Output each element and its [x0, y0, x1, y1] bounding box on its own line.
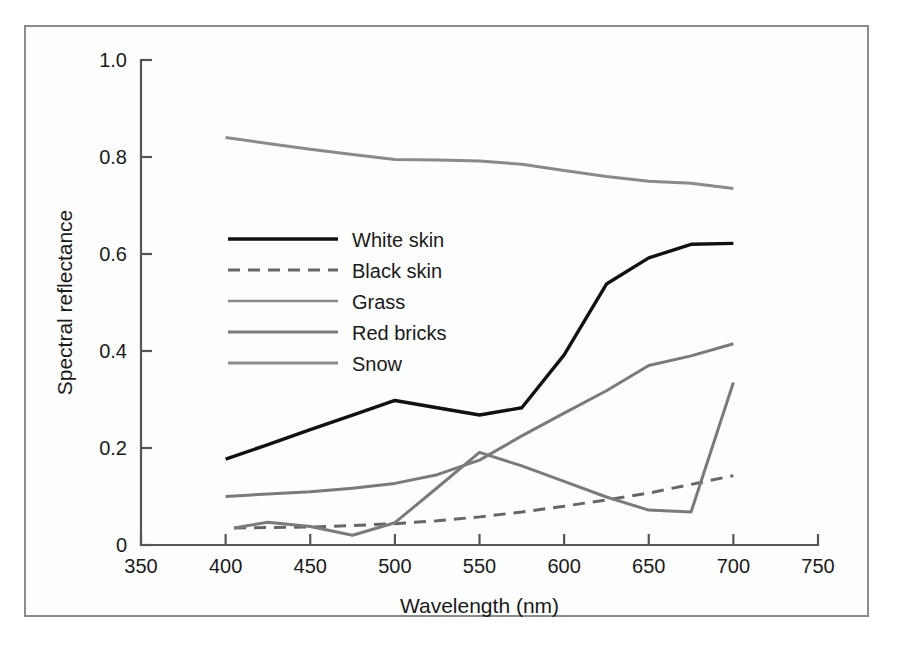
y-tick-label: 0: [116, 534, 127, 556]
series-line-white-skin: [226, 243, 734, 459]
x-tick-label: 450: [294, 555, 327, 577]
series-line-red-bricks: [226, 344, 734, 497]
legend-group: White skinBlack skinGrassRed bricksSnow: [228, 229, 446, 375]
legend-label-white-skin: White skin: [352, 229, 444, 251]
y-axis-title: Spectral reflectance: [53, 210, 76, 396]
y-tick-label: 0.8: [99, 146, 127, 168]
spectral-reflectance-plot: 35040045050055060065070075000.20.40.60.8…: [0, 0, 912, 652]
x-tick-label: 500: [378, 555, 411, 577]
x-tick-label: 400: [209, 555, 242, 577]
x-tick-label: 650: [632, 555, 665, 577]
series-line-black-skin: [234, 476, 733, 528]
series-group: [226, 138, 734, 536]
y-tick-label: 0.2: [99, 437, 127, 459]
x-tick-label: 700: [717, 555, 750, 577]
y-tick-label: 0.6: [99, 243, 127, 265]
x-tick-label: 750: [801, 555, 834, 577]
series-line-snow: [226, 138, 734, 189]
y-tick-label: 1.0: [99, 49, 127, 71]
x-axis-title: Wavelength (nm): [400, 594, 559, 617]
legend-label-black-skin: Black skin: [352, 260, 442, 282]
legend-label-red-bricks: Red bricks: [352, 322, 446, 344]
x-tick-label: 550: [463, 555, 496, 577]
legend-label-grass: Grass: [352, 291, 405, 313]
chart-area: 35040045050055060065070075000.20.40.60.8…: [0, 0, 912, 652]
x-tick-label: 600: [547, 555, 580, 577]
legend-label-snow: Snow: [352, 353, 403, 375]
y-tick-label: 0.4: [99, 340, 127, 362]
x-tick-label: 350: [124, 555, 157, 577]
axes-group: 35040045050055060065070075000.20.40.60.8…: [99, 49, 835, 577]
